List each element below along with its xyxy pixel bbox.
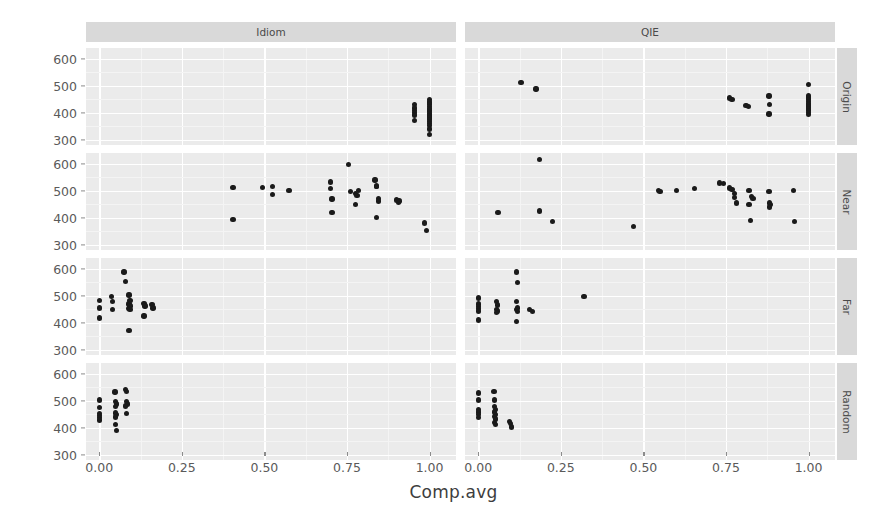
gridline-minor-horizontal [86, 414, 456, 415]
facet-col-strip-label: QIE [641, 26, 659, 38]
gridline-minor-vertical [388, 363, 389, 460]
data-point [537, 208, 542, 213]
data-point [124, 411, 129, 416]
gridline-major-horizontal [86, 164, 456, 165]
data-point [493, 422, 498, 427]
gridline-minor-horizontal [86, 309, 456, 310]
gridline-major-vertical [347, 153, 348, 250]
gridline-major-vertical [478, 153, 479, 250]
gridline-minor-horizontal [86, 387, 456, 388]
data-point [329, 196, 334, 201]
y-axis-tick-mark [81, 454, 85, 455]
data-point [767, 204, 772, 209]
data-point [494, 310, 499, 315]
gridline-minor-horizontal [86, 72, 456, 73]
x-axis-tick-mark [643, 452, 644, 456]
data-point [114, 428, 119, 433]
y-axis-tick-mark [81, 217, 85, 218]
gridline-major-horizontal [86, 296, 456, 297]
x-axis-tick-mark [347, 452, 348, 456]
data-point [110, 307, 115, 312]
gridline-major-vertical [809, 258, 810, 355]
data-point [748, 218, 753, 223]
y-axis-tick-label: 500 [37, 288, 77, 303]
panel-idiom-random [86, 363, 456, 460]
gridline-minor-horizontal [465, 231, 835, 232]
gridline-minor-horizontal [86, 231, 456, 232]
facet-row-strip-origin: Origin [837, 48, 857, 145]
gridline-minor-horizontal [465, 414, 835, 415]
data-point [509, 424, 514, 429]
gridline-major-vertical [264, 363, 265, 460]
data-point [766, 189, 771, 194]
gridline-minor-vertical [602, 363, 603, 460]
gridline-major-vertical [430, 363, 431, 460]
data-point [374, 215, 379, 220]
gridline-major-horizontal [86, 401, 456, 402]
data-point [110, 299, 115, 304]
data-point [792, 219, 797, 224]
y-axis-tick-mark [81, 349, 85, 350]
x-axis-tick-mark [561, 452, 562, 456]
gridline-major-horizontal [86, 455, 456, 456]
data-point [142, 303, 147, 308]
gridline-major-horizontal [465, 269, 835, 270]
y-axis-tick-label: 600 [37, 51, 77, 66]
gridline-major-horizontal [465, 374, 835, 375]
data-point [766, 111, 771, 116]
y-axis-tick-mark [81, 295, 85, 296]
gridline-major-vertical [726, 363, 727, 460]
gridline-major-horizontal [86, 218, 456, 219]
data-point [581, 294, 586, 299]
y-axis-tick-mark [81, 163, 85, 164]
y-axis-tick-label: 300 [37, 132, 77, 147]
data-point [97, 405, 102, 410]
gridline-major-horizontal [86, 113, 456, 114]
data-point [734, 200, 739, 205]
gridline-minor-horizontal [86, 99, 456, 100]
data-point [746, 188, 751, 193]
y-axis-tick-mark [81, 373, 85, 374]
gridline-major-horizontal [86, 86, 456, 87]
gridline-major-vertical [809, 363, 810, 460]
data-point [550, 219, 555, 224]
gridline-major-horizontal [465, 140, 835, 141]
gridline-major-horizontal [465, 296, 835, 297]
gridline-minor-horizontal [86, 441, 456, 442]
gridline-minor-vertical [306, 258, 307, 355]
x-axis-tick-label: 0.00 [453, 460, 503, 475]
gridline-major-vertical [478, 48, 479, 145]
y-axis-tick-label: 400 [37, 210, 77, 225]
data-point [328, 179, 333, 184]
panel-idiom-far [86, 258, 456, 355]
data-point [424, 228, 429, 233]
panel-qie-origin [465, 48, 835, 145]
gridline-minor-vertical [223, 258, 224, 355]
y-axis-tick-mark [81, 268, 85, 269]
gridline-major-vertical [809, 153, 810, 250]
gridline-minor-horizontal [465, 387, 835, 388]
data-point [766, 93, 771, 98]
facet-row-strip-far: Far [837, 258, 857, 355]
gridline-major-vertical [430, 153, 431, 250]
gridline-major-horizontal [465, 86, 835, 87]
gridline-major-horizontal [86, 428, 456, 429]
facet-col-strip-idiom: Idiom [86, 22, 456, 42]
gridline-minor-horizontal [465, 99, 835, 100]
gridline-minor-horizontal [465, 126, 835, 127]
gridline-major-horizontal [86, 245, 456, 246]
data-point [141, 313, 146, 318]
y-axis-tick-label: 300 [37, 447, 77, 462]
data-point [631, 224, 636, 229]
data-point [750, 196, 755, 201]
gridline-major-horizontal [86, 140, 456, 141]
data-point [329, 210, 334, 215]
gridline-minor-vertical [767, 258, 768, 355]
y-axis-tick-label: 600 [37, 366, 77, 381]
gridline-minor-vertical [685, 258, 686, 355]
data-point [767, 102, 772, 107]
gridline-major-horizontal [86, 350, 456, 351]
gridline-minor-horizontal [86, 126, 456, 127]
gridline-minor-horizontal [465, 204, 835, 205]
gridline-major-vertical [264, 48, 265, 145]
